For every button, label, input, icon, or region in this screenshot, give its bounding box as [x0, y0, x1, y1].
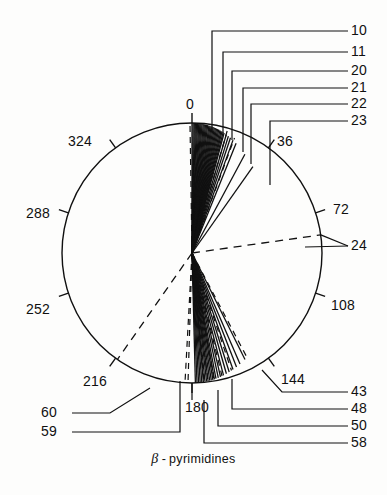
callout-label-20: 20: [351, 63, 367, 77]
leader-lines-top-right: [212, 31, 348, 185]
leader-line-24: [305, 235, 348, 247]
callout-label-22: 22: [351, 96, 367, 110]
polar-diagram-canvas: [0, 0, 387, 495]
ray-60-dashed: [117, 253, 192, 360]
callout-label-48: 48: [351, 401, 367, 415]
figure-caption: β-pyrimidines: [0, 452, 387, 466]
tick-label-72: 72: [333, 202, 349, 216]
tick-label-0: 0: [186, 97, 194, 111]
tick-label-216: 216: [83, 374, 107, 388]
callout-label-11: 11: [351, 44, 366, 58]
callout-label-21: 21: [351, 80, 367, 94]
caption-text: pyrimidines: [169, 452, 236, 466]
callout-label-50: 50: [351, 418, 367, 432]
callout-label-24: 24: [351, 238, 367, 252]
tick-label-108: 108: [331, 298, 355, 312]
tick-label-324: 324: [68, 134, 92, 148]
tick-label-288: 288: [26, 206, 50, 220]
tick-label-252: 252: [26, 302, 50, 316]
leader-lines-bottom-right: [204, 370, 348, 443]
tick-label-180: 180: [185, 400, 209, 414]
tick-label-36: 36: [277, 134, 293, 148]
caption-dash: -: [162, 452, 166, 466]
ray-cluster-upper-solid: [192, 123, 253, 253]
callout-label-59: 59: [41, 424, 57, 438]
callout-label-23: 23: [351, 113, 367, 127]
ray-24-dashed: [192, 235, 321, 253]
beta-symbol: β: [151, 451, 158, 466]
figure-root: 0 36 72 108 144 180 216 252 288 324 10 1…: [0, 0, 387, 495]
callout-label-60: 60: [41, 405, 57, 419]
tick-label-144: 144: [281, 372, 305, 386]
callout-label-10: 10: [351, 23, 367, 37]
callout-label-58: 58: [351, 435, 367, 449]
callout-label-43: 43: [351, 384, 367, 398]
